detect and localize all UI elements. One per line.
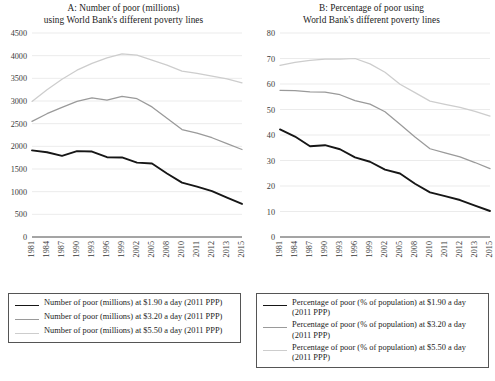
x-axis-tick-label: 1984 (290, 241, 299, 257)
y-axis-tick-label: 20 (267, 182, 275, 191)
x-axis-tick-label: 1999 (365, 241, 374, 257)
x-axis-tick-label: 2013 (222, 241, 231, 257)
y-axis-tick-label: 80 (267, 29, 275, 38)
x-axis-tick-label: 2011 (440, 241, 449, 257)
legend-item: Percentage of poor (% of population) at … (261, 320, 484, 340)
y-axis-tick-label: 1500 (11, 165, 27, 174)
x-axis-tick-label: 1990 (320, 241, 329, 257)
x-axis-tick-label: 1990 (72, 241, 81, 257)
x-axis-tick-label: 2010 (425, 241, 434, 257)
x-axis-tick-label: 2015 (485, 241, 494, 257)
x-axis-tick-label: 2002 (132, 241, 141, 257)
legend-label: Percentage of poor (% of population) at … (292, 298, 484, 318)
data-series-line (280, 90, 490, 168)
y-axis-tick-label: 70 (267, 55, 275, 64)
y-axis-tick-label: 2500 (11, 120, 27, 129)
y-axis-tick-label: 10 (267, 208, 275, 217)
legend-item: Percentage of poor (% of population) at … (261, 343, 484, 363)
legend-item: Number of poor (millions) at $1.90 a day… (13, 298, 236, 310)
y-axis-tick-label: 0 (23, 233, 27, 242)
chart-b-legend: Percentage of poor (% of population) at … (256, 293, 489, 368)
data-series-line (32, 150, 242, 204)
x-axis-tick-label: 1987 (57, 241, 66, 257)
x-axis-tick-label: 2015 (237, 241, 246, 257)
y-axis-tick-label: 60 (267, 80, 275, 89)
data-series-line (32, 96, 242, 149)
legend-line-swatch-190-icon (15, 301, 39, 310)
legend-line-swatch-190-icon (263, 301, 287, 310)
panel-b: B: Percentage of poor using World Bank's… (248, 0, 495, 381)
data-series-line (32, 54, 242, 102)
panel-a: A: Number of poor (millions) using World… (0, 0, 247, 381)
chart-a-title-line1: A: Number of poor (millions) (68, 3, 180, 13)
x-axis-tick-label: 1996 (350, 241, 359, 257)
chart-b-title-line2: World Bank's different poverty lines (303, 15, 440, 25)
legend-label: Percentage of poor (% of population) at … (292, 320, 484, 340)
chart-b-svg: 0102030405060708019811984198719901993199… (248, 27, 495, 279)
legend-line-swatch-320-icon (15, 315, 39, 324)
x-axis-tick-label: 2002 (380, 241, 389, 257)
x-axis-tick-label: 1993 (87, 241, 96, 257)
x-axis-tick-label: 2010 (177, 241, 186, 257)
x-axis-tick-label: 2005 (395, 241, 404, 257)
y-axis-tick-label: 3500 (11, 74, 27, 83)
x-axis-tick-label: 2011 (192, 241, 201, 257)
x-axis-tick-label: 2012 (207, 241, 216, 257)
y-axis-tick-label: 500 (15, 210, 27, 219)
x-axis-tick-label: 2012 (455, 241, 464, 257)
x-axis-tick-label: 2005 (147, 241, 156, 257)
legend-item: Number of poor (millions) at $3.20 a day… (13, 312, 236, 324)
y-axis-tick-label: 2000 (11, 142, 27, 151)
legend-label: Percentage of poor (% of population) at … (292, 343, 484, 363)
legend-label: Number of poor (millions) at $3.20 a day… (44, 312, 222, 322)
y-axis-tick-label: 50 (267, 106, 275, 115)
data-series-line (280, 129, 490, 211)
chart-a-plot: 0500100015002000250030003500400045001981… (0, 27, 247, 279)
y-axis-tick-label: 40 (267, 131, 275, 140)
legend-item: Percentage of poor (% of population) at … (261, 298, 484, 318)
chart-a-title: A: Number of poor (millions) using World… (0, 0, 247, 27)
figure-root: A: Number of poor (millions) using World… (0, 0, 495, 381)
chart-a-title-line2: using World Bank's different poverty lin… (44, 15, 203, 25)
y-axis-tick-label: 1000 (11, 188, 27, 197)
chart-b-title: B: Percentage of poor using World Bank's… (248, 0, 495, 27)
legend-line-swatch-550-icon (15, 329, 39, 338)
y-axis-tick-label: 0 (271, 233, 275, 242)
y-axis-tick-label: 4000 (11, 52, 27, 61)
legend-line-swatch-550-icon (263, 346, 287, 355)
data-series-line (280, 59, 490, 117)
y-axis-tick-label: 4500 (11, 29, 27, 38)
legend-label: Number of poor (millions) at $5.50 a day… (44, 326, 222, 336)
x-axis-tick-label: 2013 (470, 241, 479, 257)
legend-line-swatch-320-icon (263, 323, 287, 332)
y-axis-tick-label: 30 (267, 157, 275, 166)
chart-b-title-line1: B: Percentage of poor using (319, 3, 424, 13)
x-axis-tick-label: 1981 (27, 241, 36, 257)
x-axis-tick-label: 1987 (305, 241, 314, 257)
x-axis-tick-label: 1999 (117, 241, 126, 257)
legend-item: Number of poor (millions) at $5.50 a day… (13, 326, 236, 338)
chart-b-plot: 0102030405060708019811984198719901993199… (248, 27, 495, 279)
chart-a-legend: Number of poor (millions) at $1.90 a day… (8, 293, 241, 343)
x-axis-tick-label: 1996 (102, 241, 111, 257)
x-axis-tick-label: 1993 (335, 241, 344, 257)
chart-a-svg: 0500100015002000250030003500400045001981… (0, 27, 247, 279)
x-axis-tick-label: 1981 (275, 241, 284, 257)
x-axis-tick-label: 1984 (42, 241, 51, 257)
legend-label: Number of poor (millions) at $1.90 a day… (44, 298, 222, 308)
x-axis-tick-label: 2008 (410, 241, 419, 257)
x-axis-tick-label: 2008 (162, 241, 171, 257)
y-axis-tick-label: 3000 (11, 97, 27, 106)
